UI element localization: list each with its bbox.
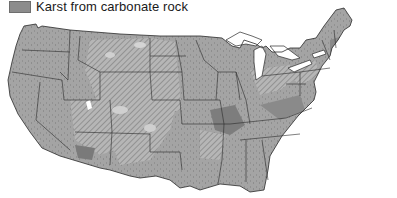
land-area (0, 0, 397, 198)
us-karst-map (0, 0, 397, 198)
